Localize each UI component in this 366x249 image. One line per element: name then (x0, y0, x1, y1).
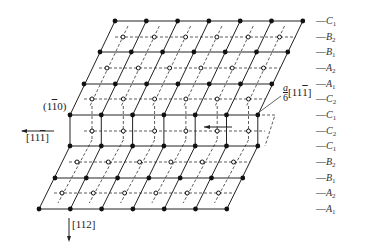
layer-label: —C2 (316, 126, 336, 139)
atom-solid (193, 113, 198, 118)
atom-solid (162, 144, 167, 149)
atom-solid (162, 207, 167, 212)
layer-label: —B2 (316, 157, 336, 170)
direction-down-label: [112] (72, 219, 95, 230)
atom-solid (300, 19, 305, 24)
layer-label: —A1 (316, 204, 336, 217)
atom-solid (238, 82, 243, 87)
layer-label: —C1 (316, 141, 336, 154)
dir-down-text: [112] (72, 218, 95, 230)
atom-solid (223, 50, 228, 55)
atom-solid (255, 113, 260, 118)
atom-hollow (121, 97, 125, 101)
atom-hollow (60, 191, 64, 195)
layer-label: —A1 (316, 79, 336, 92)
atom-solid (99, 207, 104, 212)
atom-solid (193, 207, 198, 212)
atom-hollow (91, 191, 95, 195)
atom-hollow (153, 129, 157, 133)
atom-hollow (184, 129, 188, 133)
atom-solid (192, 50, 197, 55)
atom-hollow (138, 160, 142, 164)
atom-hollow (123, 191, 127, 195)
atom-solid (131, 207, 136, 212)
atom-solid (37, 207, 42, 212)
shear-dir-end: ] (308, 86, 312, 98)
atom-solid (160, 50, 165, 55)
shear-dir-start: [11 (288, 86, 302, 98)
atom-solid (99, 144, 104, 149)
sheared-cell (257, 115, 275, 146)
atom-solid (144, 19, 149, 24)
atom-hollow (105, 66, 109, 70)
atom-solid (269, 82, 274, 87)
atom-hollow (136, 66, 140, 70)
atom-solid (224, 144, 229, 149)
atom-hollow (169, 160, 173, 164)
atom-solid (144, 82, 149, 87)
atom-hollow (247, 129, 251, 133)
atom-hollow (121, 129, 125, 133)
layer-label: —A2 (316, 188, 336, 201)
atom-solid (129, 50, 134, 55)
atom-hollow (246, 35, 250, 39)
atom-solid (68, 113, 73, 118)
layer-label: —B1 (316, 173, 336, 186)
plane-label: (110) (43, 101, 66, 112)
atom-solid (84, 176, 89, 181)
atom-solid (115, 176, 120, 181)
atom-solid (207, 19, 212, 24)
atom-hollow (199, 66, 203, 70)
atom-solid (224, 207, 229, 212)
atom-hollow (154, 191, 158, 195)
atom-solid (193, 144, 198, 149)
atom-hollow (215, 129, 219, 133)
atom-solid (99, 113, 104, 118)
dir-left-start: [11 (26, 131, 40, 143)
atom-solid (147, 176, 152, 181)
atom-solid (53, 176, 58, 181)
atom-hollow (121, 35, 125, 39)
atom-hollow (232, 160, 236, 164)
atom-hollow (184, 35, 188, 39)
atom-hollow (200, 160, 204, 164)
atom-solid (130, 144, 135, 149)
atom-solid (175, 19, 180, 24)
layer-label: —C1 (316, 110, 336, 123)
plane-label-end: 0) (57, 100, 66, 112)
atom-solid (254, 50, 259, 55)
atom-solid (130, 113, 135, 118)
atom-hollow (230, 66, 234, 70)
atom-solid (113, 82, 118, 87)
atom-solid (238, 19, 243, 24)
atom-hollow (184, 97, 188, 101)
lattice-diagram (0, 0, 366, 249)
atom-solid (209, 176, 214, 181)
shear-label: a 6 [111] (283, 83, 311, 102)
atom-solid (176, 82, 181, 87)
atom-hollow (152, 35, 156, 39)
layer-label: —A2 (316, 63, 336, 76)
atom-hollow (247, 97, 251, 101)
direction-left-label: [111] (26, 132, 49, 143)
layer-label: —C1 (316, 16, 336, 29)
atom-hollow (278, 35, 282, 39)
atom-hollow (215, 35, 219, 39)
layer-label: —B1 (316, 47, 336, 60)
atom-hollow (262, 66, 266, 70)
direction-down-arrowhead (67, 236, 71, 242)
atom-hollow (75, 160, 79, 164)
atom-solid (255, 144, 260, 149)
atom-solid (178, 176, 183, 181)
atom-hollow (185, 191, 189, 195)
layer-label: —C2 (316, 94, 336, 107)
shear-leader (258, 96, 281, 113)
atom-solid (68, 207, 73, 212)
layer-label: —B2 (316, 32, 336, 45)
atom-solid (113, 19, 118, 24)
atom-solid (98, 50, 103, 55)
atom-solid (207, 82, 212, 87)
shear-arrow-head (204, 125, 210, 129)
dir-left-end: ] (45, 131, 49, 143)
atom-hollow (90, 129, 94, 133)
